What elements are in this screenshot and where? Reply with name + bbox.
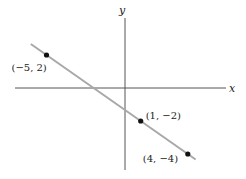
point-label-1: (−5, 2) [12,62,47,73]
point-2 [138,118,143,123]
point-3 [185,151,190,156]
point-1 [44,52,49,57]
y-axis-label: y [118,4,126,17]
point-label-2: (1, −2) [146,110,181,121]
x-axis-label: x [229,82,236,95]
point-label-3: (4, −4) [143,153,178,164]
coordinate-plot: x y (−5, 2)(1, −2)(4, −4) [0,0,246,179]
line [31,44,196,160]
